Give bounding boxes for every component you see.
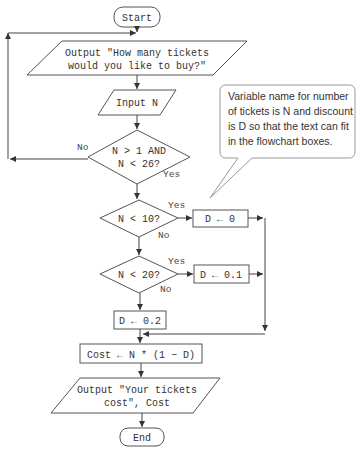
check-under-10-label: N < 10? — [118, 214, 160, 225]
flowchart-diagram: Start Output "How many tickets would you… — [0, 0, 357, 451]
check-under-20-label: N < 20? — [118, 270, 160, 281]
assign-d-01-box: D ← 0.1 — [194, 265, 249, 283]
assign-d-01-label: D ← 0.1 — [200, 270, 242, 281]
output-prompt-line-1: Output "How many tickets — [65, 48, 209, 59]
cost-calculation-box: Cost ← N * (1 − D) — [80, 344, 202, 363]
validate-no-label: No — [77, 142, 89, 153]
output-prompt-line-2: would you like to buy?" — [68, 61, 206, 72]
validate-line-1: N > 1 AND — [112, 146, 166, 157]
assign-d-02-label: D ← 0.2 — [119, 316, 161, 327]
start-label: Start — [122, 13, 152, 24]
validate-line-2: N < 26? — [118, 159, 160, 170]
check-under-20-no: No — [160, 284, 172, 295]
output-cost-line-1: Output "Your tickets — [77, 385, 197, 396]
end-terminal: End — [120, 428, 164, 446]
assign-d-0-box: D ← 0 — [193, 210, 248, 227]
check-under-20-yes: Yes — [168, 256, 185, 267]
assign-d-0-label: D ← 0 — [205, 214, 235, 225]
callout-line-2: of tickets is N and discount — [228, 105, 353, 117]
callout-line-1: Variable name for number — [228, 90, 349, 102]
note-callout: Variable name for number of tickets is N… — [210, 85, 355, 198]
end-label: End — [133, 433, 151, 444]
input-n-parallelogram: Input N — [98, 90, 176, 115]
validate-yes-label: Yes — [163, 169, 180, 180]
assign-d-02-box: D ← 0.2 — [114, 311, 166, 329]
callout-line-3: is D so that the text can fit — [228, 120, 349, 132]
cost-calculation-label: Cost ← N * (1 − D) — [87, 350, 195, 361]
start-terminal: Start — [114, 7, 160, 27]
output-prompt-parallelogram: Output "How many tickets would you like … — [27, 41, 247, 75]
callout-line-4: in the flowchart boxes. — [228, 135, 332, 147]
check-under-10-yes: Yes — [168, 200, 185, 211]
output-cost-line-2: cost", Cost — [104, 398, 170, 409]
output-cost-parallelogram: Output "Your tickets cost", Cost — [51, 378, 220, 413]
input-n-label: Input N — [116, 98, 158, 109]
check-under-10-no: No — [158, 230, 170, 241]
